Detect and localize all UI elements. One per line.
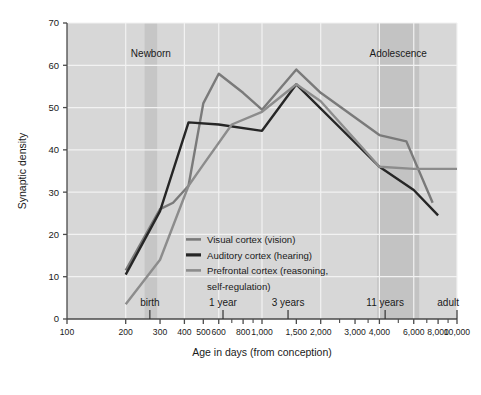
x-axis-tick-label: 100 — [60, 327, 75, 337]
x-axis-tick-label: 6,000 — [403, 327, 425, 337]
synaptic-density-line-chart: NewbornAdolescence0102030405060701002003… — [0, 0, 481, 395]
x-axis-tick-label: 800 — [236, 327, 251, 337]
band-label-newborn: Newborn — [131, 48, 171, 59]
y-axis-tick-label: 60 — [48, 60, 59, 71]
band-label-adolescence: Adolescence — [370, 48, 428, 59]
y-axis-tick-label: 0 — [54, 313, 59, 324]
legend-label-1: Auditory cortex (hearing) — [207, 250, 312, 261]
x-axis-tick-label: 1,500 — [286, 327, 308, 337]
x-axis-title: Age in days (from conception) — [192, 346, 331, 358]
x-axis-tick-label: 4,000 — [369, 327, 391, 337]
x-axis-tick-label: 600 — [212, 327, 227, 337]
stage-label-adult: adult — [437, 297, 459, 308]
stage-label-birth: birth — [140, 297, 159, 308]
x-axis-tick-label: 2,000 — [310, 327, 332, 337]
stage-label-1-year: 1 year — [209, 297, 237, 308]
y-axis-tick-label: 20 — [48, 229, 59, 240]
legend-label-3: self-regulation) — [207, 281, 270, 292]
y-axis-tick-label: 30 — [48, 187, 59, 198]
chart-figure: NewbornAdolescence0102030405060701002003… — [0, 0, 481, 395]
legend-label-2: Prefrontal cortex (reasoning, — [207, 265, 328, 276]
x-axis-tick-label: 200 — [119, 327, 134, 337]
stage-label-11-years: 11 years — [366, 297, 404, 308]
y-axis-tick-label: 40 — [48, 144, 59, 155]
x-axis-tick-label: 400 — [177, 327, 192, 337]
y-axis-title: Synaptic density — [16, 132, 28, 209]
y-axis-tick-label: 70 — [48, 17, 59, 28]
x-axis-tick-label: 3,000 — [344, 327, 366, 337]
x-axis-tick-label: 10,000 — [444, 327, 471, 337]
x-axis-tick-label: 500 — [196, 327, 211, 337]
y-axis-tick-label: 50 — [48, 102, 59, 113]
legend-label-0: Visual cortex (vision) — [207, 234, 295, 245]
y-axis-tick-label: 10 — [48, 271, 59, 282]
x-axis-tick-label: 300 — [153, 327, 168, 337]
stage-label-3-years: 3 years — [272, 297, 305, 308]
x-axis-tick-label: 1,000 — [251, 327, 273, 337]
period-band-newborn — [145, 23, 158, 319]
